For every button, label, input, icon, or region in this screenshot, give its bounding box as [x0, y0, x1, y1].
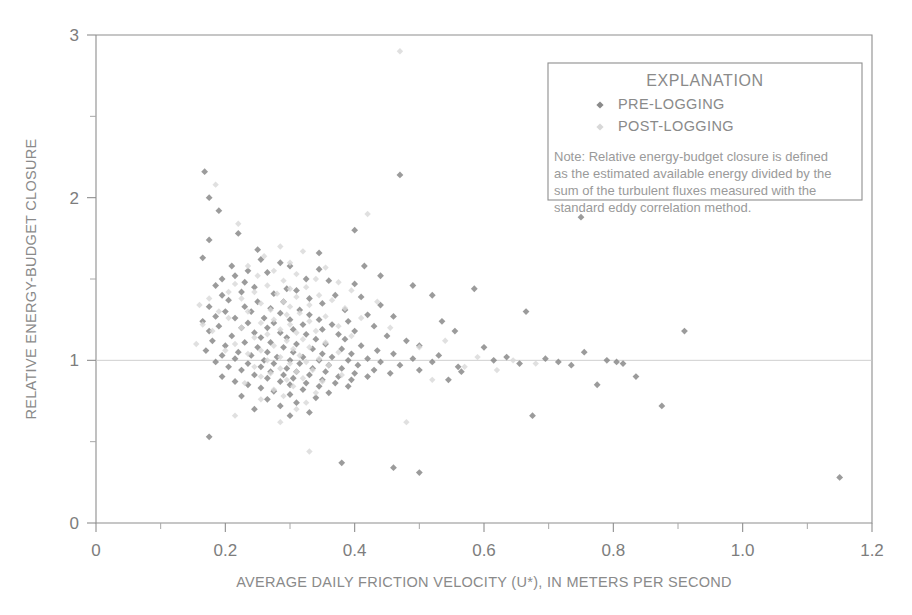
- data-point: [313, 276, 319, 282]
- data-point: [322, 313, 328, 319]
- data-point: [620, 360, 627, 367]
- data-point: [442, 338, 448, 344]
- data-point: [280, 277, 286, 283]
- data-point: [603, 357, 610, 364]
- data-point: [222, 347, 228, 353]
- data-point: [384, 333, 391, 340]
- data-point: [225, 363, 232, 370]
- data-point: [225, 315, 231, 321]
- data-point: [293, 294, 299, 300]
- data-point: [429, 292, 436, 299]
- data-point: [435, 352, 442, 359]
- data-point: [306, 409, 313, 416]
- data-point: [358, 315, 364, 321]
- data-point: [228, 333, 235, 340]
- y-tick-label: 1: [70, 351, 79, 370]
- data-point: [306, 448, 312, 454]
- data-point: [348, 333, 354, 339]
- data-point: [322, 264, 328, 270]
- data-point: [364, 311, 371, 318]
- legend-note-line: standard eddy correlation method.: [554, 200, 751, 215]
- data-point: [461, 364, 467, 370]
- data-point: [293, 406, 299, 412]
- data-point: [287, 303, 293, 309]
- data-point: [258, 373, 264, 379]
- data-point: [371, 323, 378, 330]
- data-point: [238, 295, 244, 301]
- data-point: [316, 316, 323, 323]
- data-point: [397, 171, 404, 178]
- data-point: [270, 360, 277, 367]
- data-point: [251, 289, 257, 295]
- data-point: [397, 362, 404, 369]
- data-point: [287, 391, 294, 398]
- data-point: [222, 308, 229, 315]
- data-point: [232, 355, 239, 362]
- data-point: [300, 321, 307, 328]
- data-point: [206, 433, 213, 440]
- data-point: [264, 324, 271, 331]
- data-point: [338, 365, 345, 372]
- data-point: [280, 372, 287, 379]
- data-point: [209, 337, 216, 344]
- data-point: [303, 399, 309, 405]
- data-point: [319, 300, 326, 307]
- data-point: [358, 342, 365, 349]
- legend-note-line: sum of the turbulent fluxes measured wit…: [554, 183, 816, 198]
- data-point: [300, 386, 307, 393]
- data-point: [238, 289, 245, 296]
- x-tick-label: 1.2: [860, 541, 884, 560]
- data-point: [277, 365, 283, 371]
- data-point: [235, 230, 242, 237]
- scatter-chart-figure: 00.20.40.60.81.01.2 0123 AVERAGE DAILY F…: [0, 0, 912, 615]
- data-point: [613, 359, 620, 366]
- data-point: [416, 469, 423, 476]
- data-point: [348, 350, 355, 357]
- data-point: [277, 243, 283, 249]
- y-axis-tick-labels: 0123: [70, 26, 79, 533]
- data-point: [296, 360, 303, 367]
- data-point: [206, 194, 213, 201]
- data-point: [351, 280, 358, 287]
- x-tick-label: 0.6: [472, 541, 496, 560]
- data-point: [251, 372, 258, 379]
- data-point: [264, 396, 271, 403]
- data-point: [196, 302, 202, 308]
- data-point: [335, 323, 341, 329]
- data-point: [277, 378, 284, 385]
- data-point: [335, 279, 341, 285]
- data-point: [264, 282, 270, 288]
- data-point: [387, 370, 394, 377]
- data-point: [319, 350, 326, 357]
- data-point: [316, 266, 323, 273]
- data-point: [361, 263, 368, 270]
- data-point: [306, 372, 313, 379]
- data-point: [316, 250, 323, 257]
- data-point: [332, 292, 339, 299]
- x-tick-label: 0.8: [602, 541, 626, 560]
- x-axis-tick-labels: 00.20.40.60.81.01.2: [91, 541, 884, 560]
- data-point: [258, 396, 264, 402]
- data-point: [206, 295, 212, 301]
- data-point: [228, 263, 235, 270]
- data-point: [232, 378, 239, 385]
- data-point: [199, 254, 206, 261]
- data-point: [284, 312, 290, 318]
- data-point: [345, 318, 352, 325]
- data-point: [254, 273, 260, 279]
- data-point: [445, 376, 452, 383]
- data-point: [212, 313, 219, 320]
- data-point: [241, 303, 248, 310]
- y-axis-title: RELATIVE ENERGY-BUDGET CLOSURE: [23, 138, 39, 419]
- data-point: [503, 354, 510, 361]
- data-point: [206, 237, 213, 244]
- data-point: [516, 360, 523, 367]
- data-point: [523, 308, 530, 315]
- data-point: [335, 331, 342, 338]
- data-point: [351, 370, 358, 377]
- data-point: [510, 357, 516, 363]
- data-point: [232, 341, 238, 347]
- data-point: [238, 393, 245, 400]
- data-point: [264, 331, 270, 337]
- x-tick-label: 0.4: [343, 541, 367, 560]
